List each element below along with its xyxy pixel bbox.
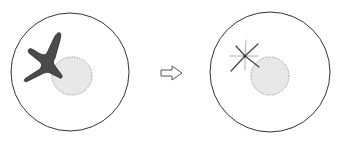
panel-after [210, 12, 330, 132]
diagram-canvas [0, 0, 345, 144]
transform-arrow-icon [161, 66, 182, 80]
nucleus-right [251, 57, 289, 95]
panel-before [11, 13, 129, 131]
